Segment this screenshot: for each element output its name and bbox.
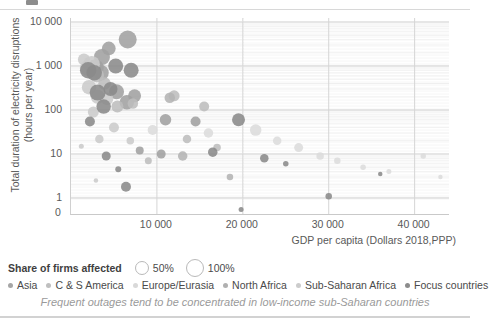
- bubble-point: [165, 92, 176, 103]
- top-divider: [0, 9, 470, 10]
- legend-swatch-icon: [133, 283, 138, 288]
- bubble-layer: [71, 18, 449, 214]
- x-tick-label: 30 000: [312, 218, 344, 230]
- bubble-point: [250, 124, 262, 136]
- bubble-point: [325, 193, 332, 200]
- legend-item-focus-countries[interactable]: Focus countries: [405, 279, 488, 291]
- plot-area: [70, 18, 449, 215]
- bubble-point: [90, 84, 106, 100]
- bubble-point: [334, 158, 341, 165]
- legend-label: Asia: [17, 279, 37, 291]
- bubble-point: [102, 152, 111, 161]
- bubble-point: [157, 150, 166, 159]
- x-tick-label: 40 000: [398, 218, 430, 230]
- bubble-point: [127, 137, 135, 145]
- bubble-point: [183, 135, 192, 144]
- legend-item-c-s-america[interactable]: C & S America: [46, 279, 123, 291]
- bubble-point: [273, 137, 282, 146]
- legend-item-sub-saharan-africa[interactable]: Sub-Saharan Africa: [296, 279, 396, 291]
- bubble-point: [204, 128, 214, 138]
- bubble-point: [160, 114, 172, 126]
- bubble-point: [199, 102, 209, 112]
- bubble-point: [191, 116, 201, 126]
- legend-swatch-icon: [46, 283, 51, 288]
- size-legend-circle-50-icon: [135, 261, 149, 275]
- bubble-point: [227, 174, 234, 181]
- legend-label: Sub-Saharan Africa: [305, 279, 396, 291]
- category-legend: AsiaC & S AmericaEurope/EurasiaNorth Afr…: [8, 278, 493, 292]
- legend-item-north-africa[interactable]: North Africa: [223, 279, 287, 291]
- bubble-point: [96, 99, 111, 114]
- bottom-divider: [0, 316, 470, 318]
- bubble-point: [420, 153, 426, 159]
- y-axis-zero-label: 0: [55, 206, 61, 218]
- bubble-point: [378, 172, 383, 177]
- bubble-point: [124, 63, 139, 78]
- size-legend-entry-100: 100%: [186, 259, 235, 277]
- figure-caption: Frequent outages tend to be concentrated…: [0, 296, 470, 308]
- y-axis-tick-labels: 10 0001 000100101: [0, 18, 66, 214]
- bubble-point: [232, 113, 245, 126]
- size-legend: Share of firms affected 50% 100%: [8, 259, 247, 277]
- bubble-point: [119, 31, 137, 49]
- legend-swatch-icon: [405, 283, 410, 288]
- x-tick-label: 20 000: [226, 218, 258, 230]
- bubble-point: [260, 154, 269, 163]
- bubble-point: [121, 182, 131, 192]
- legend-label: Focus countries: [414, 279, 488, 291]
- legend-swatch-icon: [8, 283, 13, 288]
- size-legend-entry-50: 50%: [135, 261, 174, 275]
- x-axis-title: GDP per capita (Dollars 2018,PPP): [292, 234, 456, 246]
- bubble-point: [86, 65, 102, 81]
- bubble-point: [239, 207, 244, 212]
- legend-label: North Africa: [232, 279, 287, 291]
- bubble-point: [104, 82, 118, 96]
- bubble-point: [283, 161, 289, 167]
- size-legend-circle-100-icon: [186, 259, 204, 277]
- cropped-top-marker: [26, 0, 38, 5]
- bubble-point: [136, 147, 144, 155]
- bubble-point: [95, 135, 104, 144]
- bubble-point: [294, 143, 303, 152]
- bubble-point: [316, 152, 324, 160]
- legend-swatch-icon: [223, 283, 228, 288]
- y-tick-label: 10 000: [30, 16, 62, 27]
- bubble-point: [79, 144, 84, 149]
- bubble-point: [111, 101, 123, 113]
- x-tick-label: 10 000: [140, 218, 172, 230]
- bubble-point: [178, 151, 188, 161]
- bubble-point: [386, 169, 391, 174]
- y-tick-label: 100: [44, 104, 62, 115]
- size-legend-label-100: 100%: [208, 262, 235, 274]
- legend-swatch-icon: [296, 283, 301, 288]
- y-tick-label: 1 000: [36, 60, 62, 71]
- y-tick-label: 10: [50, 148, 62, 159]
- bubble-point: [148, 125, 158, 135]
- bubble-point: [208, 147, 218, 157]
- bubble-point: [94, 178, 99, 183]
- y-tick-label: 1: [56, 192, 62, 203]
- legend-item-europe-eurasia[interactable]: Europe/Eurasia: [133, 279, 214, 291]
- bubble-point: [360, 165, 366, 171]
- bubble-point: [145, 157, 152, 164]
- bubble-point: [108, 59, 123, 74]
- x-axis-tick-labels: 10 00020 00030 00040 000: [0, 218, 470, 234]
- legend-label: C & S America: [55, 279, 123, 291]
- bubble-point: [438, 175, 443, 180]
- bubble-point: [115, 166, 121, 172]
- bubble-point: [85, 116, 95, 126]
- bubble-point: [128, 98, 139, 109]
- size-legend-title: Share of firms affected: [8, 262, 122, 274]
- legend-label: Europe/Eurasia: [142, 279, 214, 291]
- size-legend-label-50: 50%: [153, 262, 174, 274]
- bubble-point: [102, 42, 116, 56]
- legend-item-asia[interactable]: Asia: [8, 279, 37, 291]
- bubble-point: [109, 123, 119, 133]
